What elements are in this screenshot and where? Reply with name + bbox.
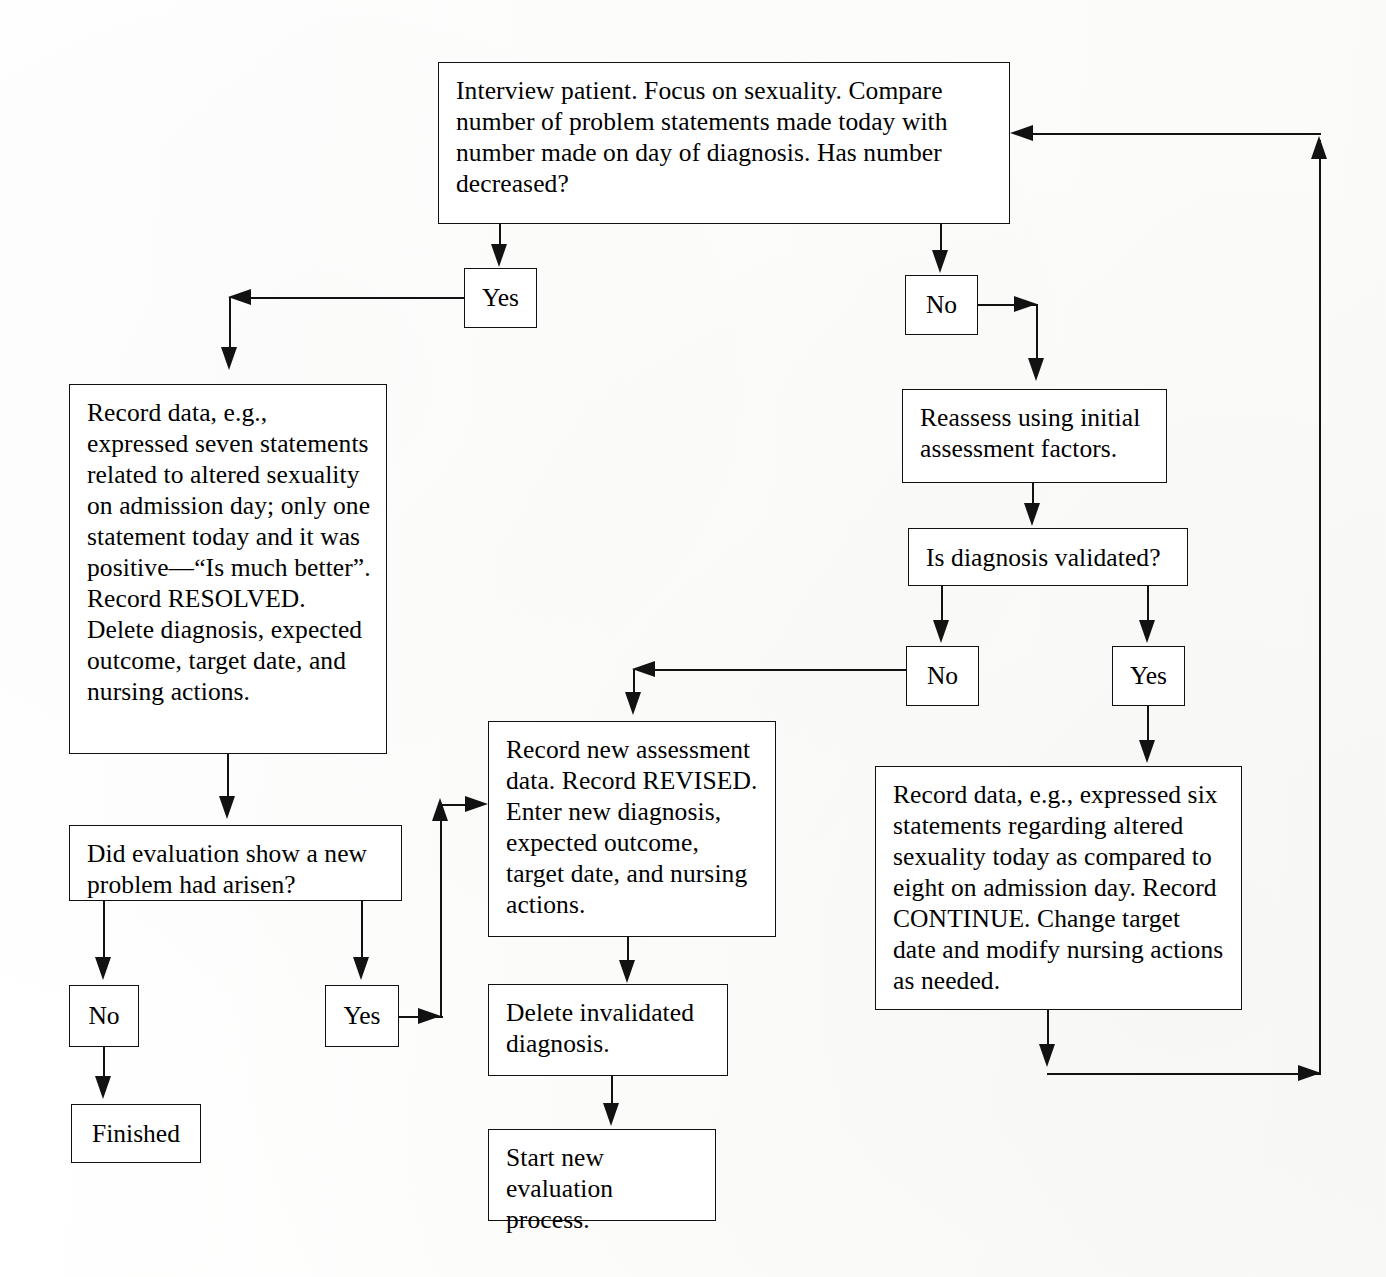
label-yes-new-problem: Yes [325,985,399,1047]
node-new-problem-arisen: Did evaluation show a new problem had ar… [69,825,402,901]
node-is-diagnosis-validated-text: Is diagnosis validated? [926,543,1173,574]
edge-validated-to-yes-arrowhead [1139,620,1155,643]
edge-no-to-reassess-right-arrowhead [1014,296,1037,312]
label-no-validated: No [906,646,979,706]
edge-validated-to-no-arrowhead [933,620,949,643]
edge-yes-problem-into-revised-arrowhead [465,796,488,812]
edge-loop-into-interview-arrowhead [1010,125,1033,141]
edge-no-validated-horizontal [641,669,907,671]
edge-no-to-reassess-arrowhead [1028,358,1044,381]
edge-validated-to-no-line [941,586,943,623]
edge-yes-validated-to-continue-arrowhead [1139,740,1155,763]
edge-no-to-finished-line [103,1047,105,1079]
edge-delete-to-start-arrowhead [603,1103,619,1126]
edge-resolved-to-new-problem-arrowhead [219,796,235,819]
node-interview-patient: Interview patient. Focus on sexuality. C… [438,62,1010,224]
node-record-resolved: Record data, e.g., expressed seven state… [69,384,387,754]
node-reassess-text: Reassess using initial assessment factor… [920,403,1152,465]
edge-yes-problem-up-arrowhead [432,798,448,821]
edge-continue-right-arrowhead [1298,1065,1321,1081]
edge-loop-top-horizontal [1029,133,1321,135]
node-delete-invalidated: Delete invalidated diagnosis. [488,984,728,1076]
node-new-problem-arisen-text: Did evaluation show a new problem had ar… [87,839,387,901]
node-record-continue: Record data, e.g., expressed six stateme… [875,766,1242,1010]
edge-reassess-to-validated-arrowhead [1024,503,1040,526]
edge-new-problem-to-yes-line [361,901,363,959]
node-record-continue-text: Record data, e.g., expressed six stateme… [893,780,1227,997]
node-is-diagnosis-validated: Is diagnosis validated? [908,528,1188,586]
node-finished: Finished [71,1104,201,1163]
edge-loop-up-arrowhead [1311,136,1327,159]
label-yes-decreased: Yes [464,268,537,328]
edge-interview-to-no-arrowhead [932,250,948,273]
edge-resolved-to-new-problem-line [227,754,229,799]
node-record-revised-text: Record new assessment data. Record REVIS… [506,735,761,921]
edge-yes-problem-right-arrowhead [418,1008,441,1024]
edge-yes-to-resolved-vertical [229,297,231,350]
edge-interview-to-yes-arrowhead [491,244,507,267]
node-record-resolved-text: Record data, e.g., expressed seven state… [87,398,372,708]
edge-validated-to-yes-line [1147,586,1149,623]
node-interview-patient-text: Interview patient. Focus on sexuality. C… [456,76,995,200]
edge-no-to-reassess-vertical [1036,304,1038,361]
edge-no-validated-left-arrowhead [632,661,655,677]
edge-yes-validated-to-continue-line [1147,706,1149,742]
edge-interview-to-yes-line [499,224,501,246]
edge-continue-bottom-horizontal [1047,1073,1321,1075]
edge-no-to-finished-arrowhead [95,1076,111,1099]
edge-continue-down-arrowhead [1039,1044,1055,1067]
edge-yes-to-resolved-arrowhead [221,347,237,370]
edge-yes-to-resolved-left-arrowhead [228,289,251,305]
edge-yes-to-resolved-horizontal [237,297,465,299]
label-no-decreased: No [905,275,978,335]
edge-reassess-to-validated-line [1032,483,1034,505]
edge-new-problem-to-no-arrowhead [95,957,111,980]
node-record-revised: Record new assessment data. Record REVIS… [488,721,776,937]
edge-loop-right-vertical [1319,140,1321,1074]
edge-new-problem-to-no-line [103,901,105,959]
edge-yes-problem-vertical [440,803,442,1017]
edge-new-problem-to-yes-arrowhead [353,957,369,980]
edge-interview-to-no-line [940,224,942,252]
node-delete-invalidated-text: Delete invalidated diagnosis. [506,998,713,1060]
label-yes-validated: Yes [1112,646,1185,706]
node-start-new-evaluation-text: Start new evaluation process. [506,1143,701,1236]
edge-delete-to-start-line [611,1076,613,1106]
node-start-new-evaluation: Start new evaluation process. [488,1129,716,1221]
edge-continue-down-vertical [1047,1010,1049,1048]
edge-no-validated-arrowhead [625,692,641,715]
flowchart-page: Interview patient. Focus on sexuality. C… [0,0,1386,1277]
node-reassess: Reassess using initial assessment factor… [902,389,1167,483]
label-no-new-problem: No [69,985,139,1047]
edge-revised-to-delete-arrowhead [619,960,635,983]
